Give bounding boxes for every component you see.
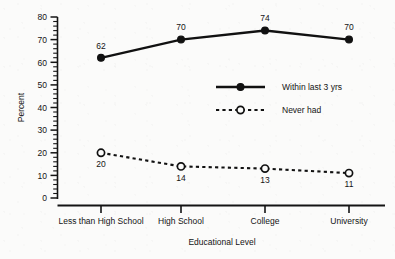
series-line-dotted xyxy=(101,153,349,173)
chart-legend: Within last 3 yrs Never had xyxy=(216,82,342,115)
data-point-marker xyxy=(261,165,268,172)
y-tick-label: 60 xyxy=(38,58,48,68)
y-tick-label: 20 xyxy=(38,148,48,158)
data-point-marker xyxy=(345,170,352,177)
y-tick-label: 0 xyxy=(42,193,47,203)
y-tick-label: 10 xyxy=(38,171,48,181)
x-tick-label: University xyxy=(330,216,368,226)
x-tick-label: College xyxy=(251,216,280,226)
series-line-solid xyxy=(101,31,349,58)
data-point-marker xyxy=(97,149,104,156)
x-axis-title: Educational Level xyxy=(188,237,255,247)
y-tick-label: 30 xyxy=(38,125,48,135)
x-axis-tick-labels: Less than High School High School Colleg… xyxy=(58,216,368,226)
y-tick-label: 80 xyxy=(38,12,48,22)
data-point-label: 13 xyxy=(260,175,270,185)
x-axis: Less than High School High School Colleg… xyxy=(58,206,386,248)
data-point-label: 74 xyxy=(260,13,270,23)
legend-marker-filled-circle xyxy=(237,84,244,91)
x-axis-ticks xyxy=(101,206,349,214)
data-point-label: 14 xyxy=(176,173,186,183)
series-within-last-3-yrs: 62 70 74 70 xyxy=(96,13,354,61)
y-tick-label: 50 xyxy=(38,80,48,90)
data-point-label: 62 xyxy=(96,41,106,51)
data-point-label: 11 xyxy=(345,179,354,189)
x-tick-label: High School xyxy=(158,216,204,226)
legend-entry-within-last-3-yrs: Within last 3 yrs xyxy=(216,82,342,92)
line-chart: 80 70 60 50 40 30 20 10 0 Percent xyxy=(0,0,395,259)
data-point-label: 70 xyxy=(344,22,354,32)
series-never-had: 20 14 13 11 xyxy=(96,149,353,189)
y-axis: 80 70 60 50 40 30 20 10 0 Percent xyxy=(16,12,58,203)
legend-entry-never-had: Never had xyxy=(216,105,321,115)
legend-label: Within last 3 yrs xyxy=(282,82,342,92)
data-point-marker xyxy=(262,27,269,34)
y-axis-tick-labels: 80 70 60 50 40 30 20 10 0 xyxy=(38,12,48,203)
data-point-marker xyxy=(98,54,105,61)
data-point-label: 70 xyxy=(176,22,186,32)
y-tick-label: 70 xyxy=(38,35,48,45)
y-tick-label: 40 xyxy=(38,103,48,113)
data-point-marker xyxy=(178,36,185,43)
x-tick-label: Less than High School xyxy=(58,216,143,226)
data-point-label: 20 xyxy=(96,159,106,169)
figure-container: 80 70 60 50 40 30 20 10 0 Percent xyxy=(0,0,395,259)
y-axis-title: Percent xyxy=(16,92,26,122)
legend-label: Never had xyxy=(282,105,321,115)
data-point-marker xyxy=(177,163,184,170)
data-point-marker xyxy=(346,36,353,43)
legend-marker-open-circle xyxy=(237,106,244,113)
